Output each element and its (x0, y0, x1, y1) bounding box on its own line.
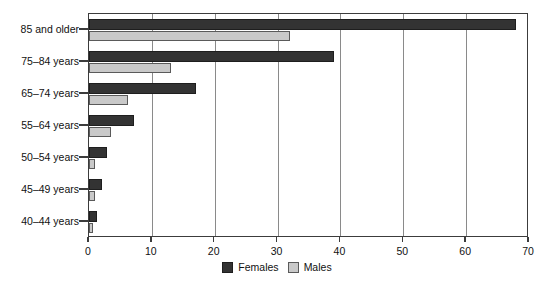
bar-males (89, 223, 93, 234)
plot-area (88, 13, 528, 237)
x-axis-tick (339, 237, 340, 242)
legend-item-females[interactable]: Females (222, 262, 278, 273)
x-axis-tick (276, 237, 277, 242)
y-axis-labels: 40–44 years45–49 years50–54 years55–64 y… (0, 0, 79, 291)
bar-males (89, 159, 95, 170)
bar-females (89, 19, 516, 30)
legend-swatch-males-icon (288, 262, 299, 273)
legend-label-males: Males (304, 262, 332, 273)
bar-chart: 40–44 years45–49 years50–54 years55–64 y… (0, 0, 554, 291)
bar-males (89, 63, 171, 74)
bar-males (89, 95, 128, 106)
bar-females (89, 179, 102, 190)
gridline (340, 14, 341, 236)
bar-females (89, 147, 107, 158)
legend-item-males[interactable]: Males (288, 262, 332, 273)
y-axis-tick (79, 220, 88, 221)
gridline (215, 14, 216, 236)
y-axis-label: 50–54 years (21, 152, 79, 163)
y-axis-label: 40–44 years (21, 216, 79, 227)
y-axis-tick (79, 188, 88, 189)
bar-males (89, 191, 95, 202)
x-axis-label: 10 (134, 246, 168, 257)
x-axis-tick (402, 237, 403, 242)
y-axis-tick (79, 92, 88, 93)
y-axis-tick (79, 124, 88, 125)
y-axis-label: 45–49 years (21, 184, 79, 195)
bar-females (89, 211, 97, 222)
x-axis-tick (464, 237, 465, 242)
bar-females (89, 51, 334, 62)
x-axis-label: 0 (71, 246, 105, 257)
gridline (403, 14, 404, 236)
x-axis-tick (527, 237, 528, 242)
y-axis-tick (79, 28, 88, 29)
bar-males (89, 31, 290, 42)
x-axis-label: 70 (511, 246, 545, 257)
y-axis-label: 65–74 years (21, 88, 79, 99)
x-axis-tick (150, 237, 151, 242)
x-axis-label: 60 (448, 246, 482, 257)
gridline (152, 14, 153, 236)
x-axis-tick (87, 237, 88, 242)
x-axis-label: 30 (260, 246, 294, 257)
y-axis-tick (79, 156, 88, 157)
y-axis-label: 85 and older (21, 24, 79, 35)
gridline (278, 14, 279, 236)
bar-males (89, 127, 111, 138)
bar-females (89, 115, 134, 126)
x-axis-tick (213, 237, 214, 242)
legend-swatch-females-icon (222, 262, 233, 273)
y-axis-label: 75–84 years (21, 56, 79, 67)
chart-legend: Females Males (0, 262, 554, 273)
y-axis-tick (79, 60, 88, 61)
x-axis-label: 20 (197, 246, 231, 257)
x-axis-label: 40 (322, 246, 356, 257)
y-axis-label: 55–64 years (21, 120, 79, 131)
legend-label-females: Females (238, 262, 278, 273)
gridline (466, 14, 467, 236)
bar-females (89, 83, 196, 94)
x-axis-label: 50 (385, 246, 419, 257)
